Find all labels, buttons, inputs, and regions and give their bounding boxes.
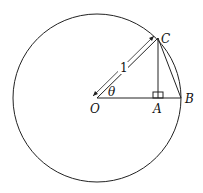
- angle-theta-label: θ: [108, 85, 116, 99]
- segment-CB: [158, 38, 181, 98]
- point-B-label: B: [184, 92, 194, 106]
- point-A-label: A: [152, 102, 162, 116]
- point-O-label: O: [90, 102, 100, 116]
- diagram-canvas: 1 θ O A B C: [0, 0, 203, 193]
- radius-label: 1: [120, 61, 128, 75]
- point-C-label: C: [161, 32, 170, 46]
